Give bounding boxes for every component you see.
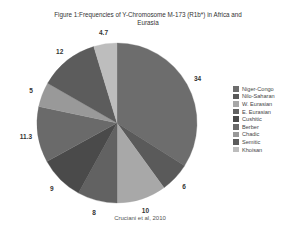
chart-legend: Niger-CongoNilo-SaharanW. EurasianE. Eur… bbox=[233, 85, 275, 153]
legend-swatch bbox=[233, 147, 239, 153]
pie-slices bbox=[37, 43, 197, 203]
legend-swatch bbox=[233, 101, 239, 107]
source-note: Cruciani et al, 2010 bbox=[80, 215, 200, 221]
legend-item: Cushitic bbox=[233, 115, 275, 123]
legend-label: Chadic bbox=[242, 131, 259, 137]
data-label: 5 bbox=[29, 87, 33, 94]
data-label: 34 bbox=[194, 75, 202, 82]
legend-label: W. Eurasian bbox=[242, 101, 272, 107]
legend-item: Semitic bbox=[233, 138, 275, 146]
data-label: 9 bbox=[50, 185, 54, 192]
legend-label: E. Eurasian bbox=[242, 109, 271, 115]
data-label: 10 bbox=[142, 207, 150, 214]
legend-swatch bbox=[233, 109, 239, 115]
data-label: 12 bbox=[56, 48, 64, 55]
legend-swatch bbox=[233, 124, 239, 130]
legend-item: Nilo-Saharan bbox=[233, 93, 275, 101]
legend-swatch bbox=[233, 116, 239, 122]
legend-label: Semitic bbox=[242, 139, 260, 145]
legend-label: Nilo-Saharan bbox=[242, 93, 275, 99]
legend-label: Khoisan bbox=[242, 147, 262, 153]
legend-label: Cushitic bbox=[242, 116, 262, 122]
data-label: 11.3 bbox=[20, 133, 33, 140]
legend-swatch bbox=[233, 132, 239, 138]
legend-item: E. Eurasian bbox=[233, 108, 275, 116]
legend-item: Niger-Congo bbox=[233, 85, 275, 93]
legend-item: Chadic bbox=[233, 131, 275, 139]
legend-item: Khoisan bbox=[233, 146, 275, 154]
legend-label: Niger-Congo bbox=[242, 86, 274, 92]
legend-item: W. Eurasian bbox=[233, 100, 275, 108]
data-label: 4.7 bbox=[99, 29, 108, 36]
legend-item: Berber bbox=[233, 123, 275, 131]
legend-swatch bbox=[233, 86, 239, 92]
legend-label: Berber bbox=[242, 124, 259, 130]
data-label: 6 bbox=[182, 183, 186, 190]
legend-swatch bbox=[233, 94, 239, 100]
legend-swatch bbox=[233, 139, 239, 145]
